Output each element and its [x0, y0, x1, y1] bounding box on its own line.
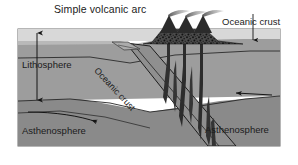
eruption-plume — [202, 10, 224, 17]
page-title: Simple volcanic arc — [54, 3, 146, 15]
label-asthenosphere-right: Asthenosphere — [205, 124, 269, 135]
volcano-cone — [177, 16, 195, 33]
label-asthenosphere-left: Asthenosphere — [22, 125, 86, 136]
label-oceanic-crust-top: Oceanic crust — [222, 16, 280, 27]
eruption-plume-group — [168, 10, 224, 18]
volcano-cone — [194, 15, 212, 33]
volcano-cone — [160, 15, 178, 33]
label-lithosphere: Lithosphere — [22, 59, 72, 70]
volcanic-arc-diagram: Simple volcanic arc Oceanic crust Lithos… — [0, 0, 298, 165]
